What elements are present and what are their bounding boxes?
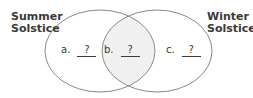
region-c-blank: ? (182, 45, 201, 57)
region-a-blank: ? (77, 45, 96, 57)
winter-label-line2: Solstice (207, 23, 253, 35)
region-b: b.? (104, 44, 140, 57)
region-b-letter: b. (104, 44, 114, 56)
winter-solstice-label: Winter Solstice (207, 11, 253, 35)
region-c-letter: c. (166, 44, 175, 56)
summer-label-line2: Solstice (11, 23, 63, 35)
region-c: c.? (166, 44, 201, 57)
region-a-letter: a. (61, 44, 70, 56)
region-b-blank: ? (121, 45, 140, 57)
region-a: a.? (61, 44, 96, 57)
summer-solstice-label: Summer Solstice (11, 11, 63, 35)
